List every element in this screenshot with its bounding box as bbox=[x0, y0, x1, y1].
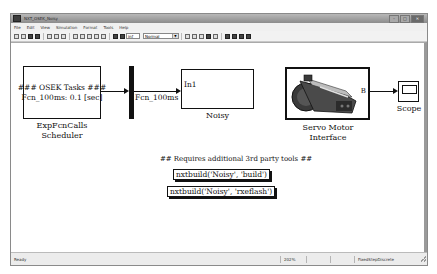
simulink-window: NXT_OSEK_Noisy – □ ✕ File Edit View Simu… bbox=[10, 13, 428, 266]
minimize-button[interactable]: – bbox=[389, 15, 399, 23]
servo-label: Servo Motor Interface bbox=[281, 123, 375, 143]
cut-icon[interactable] bbox=[47, 34, 52, 39]
signal-line[interactable] bbox=[134, 91, 176, 92]
menu-tools[interactable]: Tools bbox=[100, 25, 116, 30]
toolbar-separator bbox=[69, 33, 70, 40]
toolbar-separator bbox=[221, 33, 222, 40]
flash-command-button[interactable]: nxtbuild('Noisy', 'rxeflash') bbox=[167, 186, 275, 197]
config-params-icon[interactable] bbox=[232, 34, 237, 39]
status-text: Ready bbox=[11, 257, 280, 262]
title-bar[interactable]: NXT_OSEK_Noisy – □ ✕ bbox=[11, 14, 427, 23]
menu-file[interactable]: File bbox=[11, 25, 24, 30]
debug-icon[interactable] bbox=[213, 34, 218, 39]
forward-icon[interactable] bbox=[80, 34, 85, 39]
menu-help[interactable]: Help bbox=[116, 25, 131, 30]
scheduler-label-line2: Scheduler bbox=[19, 131, 105, 141]
status-cell bbox=[330, 256, 354, 263]
signal-line[interactable] bbox=[370, 91, 393, 92]
solver-type: FixedStepDiscrete bbox=[354, 256, 420, 263]
scope-viewer-icon[interactable] bbox=[246, 34, 251, 39]
up-icon[interactable] bbox=[87, 34, 92, 39]
servo-label-line1: Servo Motor bbox=[281, 123, 375, 133]
menu-simulation[interactable]: Simulation bbox=[53, 25, 80, 30]
resize-grip-icon[interactable] bbox=[420, 256, 426, 262]
servo-motor-block[interactable]: B bbox=[285, 67, 370, 120]
toolbar: inf Normal ▼ bbox=[11, 31, 427, 42]
annotation-comment: ## Requires additional 3rd party tools #… bbox=[146, 155, 326, 163]
output-port-label: B bbox=[361, 87, 366, 95]
servo-label-line2: Interface bbox=[281, 133, 375, 143]
toolbar-separator bbox=[43, 33, 44, 40]
servo-motor-icon bbox=[290, 71, 362, 117]
save-icon[interactable] bbox=[28, 34, 33, 39]
window-title: NXT_OSEK_Noisy bbox=[24, 16, 58, 21]
scheduler-label-line1: ExpFcnCalls bbox=[19, 121, 105, 131]
scope-screen-icon bbox=[402, 85, 417, 94]
stop-simulation-icon[interactable] bbox=[120, 34, 125, 39]
model-canvas[interactable]: ### OSEK Tasks ### Fcn_100ms: 0.1 [sec] … bbox=[11, 42, 427, 254]
model-advisor-icon[interactable] bbox=[225, 34, 230, 39]
scope-block[interactable] bbox=[398, 81, 419, 102]
signal-label: Fcn_100ms bbox=[135, 93, 178, 102]
simulation-mode-value: Normal bbox=[145, 34, 159, 39]
scheduler-block[interactable]: ### OSEK Tasks ### Fcn_100ms: 0.1 [sec] bbox=[23, 66, 101, 119]
toolbar-separator bbox=[109, 33, 110, 40]
toolbar-separator bbox=[181, 33, 182, 40]
input-port-label: In1 bbox=[184, 80, 197, 89]
scheduler-task: Fcn_100ms: 0.1 [sec] bbox=[22, 93, 103, 103]
library-browser-icon[interactable] bbox=[199, 34, 204, 39]
scheduler-label: ExpFcnCalls Scheduler bbox=[19, 121, 105, 141]
update-diagram-icon[interactable] bbox=[192, 34, 197, 39]
menu-view[interactable]: View bbox=[37, 25, 53, 30]
signal-line[interactable] bbox=[101, 91, 124, 92]
scope-label: Scope bbox=[391, 104, 427, 113]
redo-icon[interactable] bbox=[101, 34, 106, 39]
maximize-button[interactable]: □ bbox=[400, 15, 410, 23]
noisy-label: Noisy bbox=[181, 111, 254, 120]
signal-manager-icon[interactable] bbox=[239, 34, 244, 39]
menu-format[interactable]: Format bbox=[80, 25, 100, 30]
simulink-app-icon bbox=[13, 15, 21, 22]
stop-time-input[interactable]: inf bbox=[126, 33, 140, 39]
open-icon[interactable] bbox=[21, 34, 26, 39]
close-button[interactable]: ✕ bbox=[411, 15, 424, 23]
back-icon[interactable] bbox=[73, 34, 78, 39]
print-icon[interactable] bbox=[35, 34, 40, 39]
build-command-button[interactable]: nxtbuild('Noisy', 'build') bbox=[173, 169, 270, 180]
copy-icon[interactable] bbox=[54, 34, 59, 39]
demux-block[interactable] bbox=[129, 66, 134, 119]
scheduler-title: ### OSEK Tasks ### bbox=[18, 83, 106, 93]
noisy-subsystem-block[interactable]: In1 bbox=[181, 69, 254, 109]
build-icon[interactable] bbox=[185, 34, 190, 39]
status-bar: Ready 202% FixedStepDiscrete bbox=[11, 252, 427, 265]
zoom-level: 202% bbox=[280, 256, 306, 263]
new-icon[interactable] bbox=[14, 34, 19, 39]
undo-icon[interactable] bbox=[94, 34, 99, 39]
chevron-down-icon: ▼ bbox=[172, 34, 178, 38]
window-controls: – □ ✕ bbox=[389, 15, 424, 23]
paste-icon[interactable] bbox=[61, 34, 66, 39]
model-explorer-icon[interactable] bbox=[206, 34, 211, 39]
status-cell bbox=[306, 256, 330, 263]
simulation-mode-select[interactable]: Normal ▼ bbox=[143, 33, 179, 39]
start-simulation-icon[interactable] bbox=[113, 34, 118, 39]
menu-edit[interactable]: Edit bbox=[24, 25, 38, 30]
